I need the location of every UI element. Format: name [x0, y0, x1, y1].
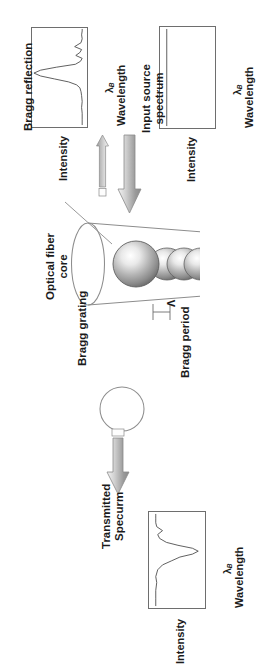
- bragg-period-label: Bragg period: [179, 306, 191, 378]
- chart-input-source-spectrum: [159, 26, 216, 129]
- chart-input-source-xlabel: Wavelength: [244, 67, 256, 128]
- chart-bragg-reflection-lambda-b: λB: [103, 82, 115, 93]
- reflected-beam-arrow: [97, 135, 109, 196]
- chart-transmitted-ylabel: Intensity: [175, 619, 187, 664]
- optical-fiber-label-line1: Optical fiber: [44, 233, 57, 300]
- optical-fiber-label-line2: core: [57, 233, 70, 300]
- transmitted-label-line1: Transmitted: [100, 484, 113, 549]
- chart-bragg-reflection-xlabel: Wavelength: [116, 65, 128, 126]
- bragg-reflection-trace: [32, 28, 87, 127]
- lambda-glyph: λ: [221, 568, 233, 574]
- transmitted-spectrum-trace: [149, 512, 205, 608]
- input-source-trace: [160, 27, 215, 128]
- chart-input-source-title-line1: Input source: [140, 64, 153, 133]
- bragg-grating-label: Bragg grating: [76, 291, 88, 366]
- lambda-subscript: B: [226, 563, 233, 568]
- lambda-glyph: λ: [231, 89, 243, 95]
- chart-transmitted-spectrum: [148, 511, 206, 609]
- lambda-subscript: B: [108, 82, 115, 87]
- chart-input-source-title-line2: spectrum: [153, 64, 166, 133]
- lambda-glyph: λ: [103, 87, 115, 93]
- chart-input-source-lambda-b: λB: [231, 84, 243, 95]
- transmitted-spectrum-label: Transmitted Specurm: [100, 484, 126, 549]
- lambda-subscript: B: [236, 84, 243, 89]
- fiber-leader-line: [65, 202, 112, 244]
- chart-input-source-ylabel: Intensity: [186, 137, 198, 182]
- transmitted-label-line2: Specurm: [113, 484, 126, 549]
- chart-bragg-reflection-ylabel: Intensity: [58, 136, 70, 181]
- optical-fiber-core-label: Optical fiber core: [44, 233, 70, 300]
- chart-transmitted-xlabel: Wavelength: [234, 547, 246, 608]
- bragg-period-lambda-symbol: Λ: [166, 300, 178, 307]
- bragg-grating-elements: [113, 241, 200, 287]
- chart-bragg-reflection: [31, 27, 88, 128]
- chart-transmitted-lambda-b: λB: [221, 563, 233, 574]
- chart-bragg-reflection-title: Bragg reflection: [22, 43, 34, 131]
- chart-input-source-title: Input source spectrum: [140, 64, 166, 133]
